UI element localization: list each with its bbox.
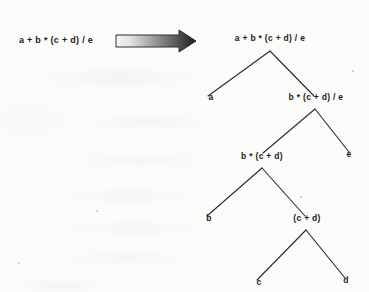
tree-edge (315, 109, 349, 152)
tree-node-root: a + b * (c + d) / e (235, 33, 305, 43)
tree-edge (270, 51, 314, 96)
tree-node-n-bcde: b * (c + d) / e (289, 92, 344, 102)
tree-node-n-e: e (346, 149, 351, 159)
tree-edge (208, 51, 270, 96)
tree-edge (306, 230, 345, 278)
tree-node-n-d: d (343, 275, 349, 285)
tree-node-n-b: b (206, 213, 212, 223)
tree-node-n-a: a (208, 92, 213, 102)
tree-node-n-bcd: b * (c + d) (241, 151, 283, 161)
tree-node-n-cd: (c + d) (293, 213, 320, 223)
tree-node-n-c: c (256, 277, 261, 287)
tree-edge (263, 109, 315, 153)
tree-edge (257, 230, 306, 280)
diagram-canvas: a + b * (c + d) / e a + b * (c + d) / ea… (0, 0, 369, 292)
tree-edge (262, 168, 305, 216)
tree-edge (207, 168, 262, 216)
tree-edges-group (0, 0, 369, 292)
